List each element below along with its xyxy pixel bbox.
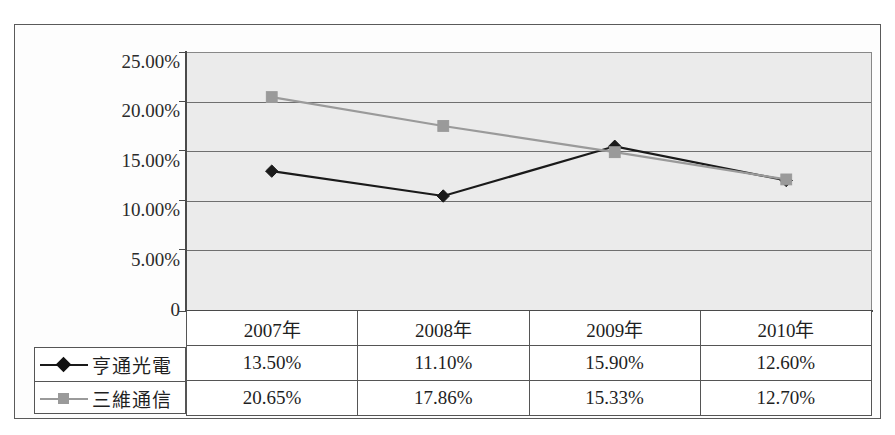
gridline-15	[187, 151, 871, 152]
y-tick-mark-15	[179, 150, 186, 151]
table-header-2007: 2007年	[187, 311, 358, 346]
table-cell-s1-2010: 12.60%	[700, 346, 871, 381]
y-tick-label-15: 15.00%	[121, 151, 180, 170]
y-tick-label-25: 25.00%	[121, 52, 180, 71]
table-cell-s1-2007: 13.50%	[187, 346, 358, 381]
table-cell-s1-2008: 11.10%	[358, 346, 529, 381]
table-cell-s2-2007: 20.65%	[187, 381, 358, 416]
table-cell-s2-2009: 15.33%	[529, 381, 700, 416]
table-header-row: 2007年 2008年 2009年 2010年	[187, 311, 872, 346]
table-row: 13.50% 11.10% 15.90% 12.60%	[187, 346, 872, 381]
plot-area	[186, 52, 872, 311]
y-tick-label-0: 0	[171, 300, 181, 319]
legend-item-series2: 三維通信	[35, 381, 185, 415]
table-header-2009: 2009年	[529, 311, 700, 346]
y-tick-mark-5	[179, 249, 186, 250]
y-axis-line	[185, 51, 187, 312]
legend-item-series1: 亨通光電	[35, 348, 185, 381]
y-tick-label-10: 10.00%	[121, 200, 180, 219]
table-header-2008: 2008年	[358, 311, 529, 346]
y-tick-mark-25	[179, 52, 186, 53]
gridline-10	[187, 201, 871, 202]
legend-label-series1: 亨通光電	[90, 351, 172, 378]
square-marker-icon	[58, 393, 69, 404]
legend-swatch-diamond	[38, 355, 90, 375]
gridline-20	[187, 102, 871, 103]
legend-label-series2: 三維通信	[90, 385, 172, 412]
chart-figure: 25.00% 20.00% 15.00% 10.00% 5.00% 0 2007…	[0, 0, 895, 435]
chart-legend: 亨通光電 三維通信	[34, 347, 186, 414]
table-header-2010: 2010年	[700, 311, 871, 346]
y-tick-label-20: 20.00%	[121, 101, 180, 120]
y-tick-label-5: 5.00%	[131, 250, 180, 269]
table-cell-s2-2008: 17.86%	[358, 381, 529, 416]
data-table: 2007年 2008年 2009年 2010年 13.50% 11.10% 15…	[186, 311, 872, 414]
gridline-5	[187, 250, 871, 251]
table-cell-s2-2010: 12.70%	[700, 381, 871, 416]
y-tick-mark-20	[179, 101, 186, 102]
legend-swatch-square	[38, 389, 90, 409]
table-row: 20.65% 17.86% 15.33% 12.70%	[187, 381, 872, 416]
table-cell-s1-2009: 15.90%	[529, 346, 700, 381]
y-tick-mark-0	[179, 311, 186, 312]
y-tick-mark-10	[179, 200, 186, 201]
diamond-marker-icon	[56, 356, 72, 372]
